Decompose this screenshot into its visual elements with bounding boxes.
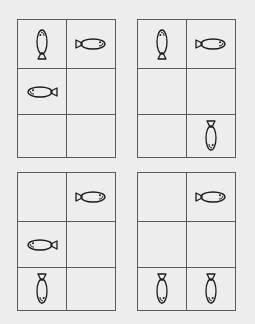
grid-cell — [138, 222, 187, 268]
fish-down-icon — [194, 129, 228, 143]
panel-top-left — [17, 19, 116, 158]
grid-cell — [187, 20, 236, 69]
fish-right-icon — [74, 37, 108, 51]
grid-cell — [18, 69, 67, 115]
grid-cell — [187, 69, 236, 115]
fish-right-icon — [194, 37, 228, 51]
panel-bottom-right — [137, 172, 236, 311]
panel-top-right — [137, 19, 236, 158]
fish-left-icon — [25, 238, 59, 252]
grid-cell — [18, 20, 67, 69]
grid-cell — [18, 115, 67, 157]
grid-cell — [67, 115, 116, 157]
grid-cell — [67, 69, 116, 115]
grid-cell — [187, 173, 236, 222]
fish-down-icon — [194, 282, 228, 296]
fish-down-icon — [145, 282, 179, 296]
fish-left-icon — [25, 85, 59, 99]
grid-cell — [187, 222, 236, 268]
grid-cell — [67, 20, 116, 69]
fish-right-icon — [74, 190, 108, 204]
grid-cell — [138, 173, 187, 222]
grid-cell — [138, 20, 187, 69]
fish-up-icon — [145, 37, 179, 51]
grid-cell — [67, 268, 116, 310]
fish-right-icon — [194, 190, 228, 204]
grid-cell — [138, 69, 187, 115]
grid-cell — [67, 173, 116, 222]
fish-up-icon — [25, 37, 59, 51]
grid-cell — [18, 268, 67, 310]
grid-cell — [67, 222, 116, 268]
grid-cell — [18, 222, 67, 268]
fish-down-icon — [25, 282, 59, 296]
grid-cell — [187, 268, 236, 310]
panel-bottom-left — [17, 172, 116, 311]
grid-cell — [18, 173, 67, 222]
grid-cell — [138, 115, 187, 157]
grid-cell — [138, 268, 187, 310]
grid-cell — [187, 115, 236, 157]
